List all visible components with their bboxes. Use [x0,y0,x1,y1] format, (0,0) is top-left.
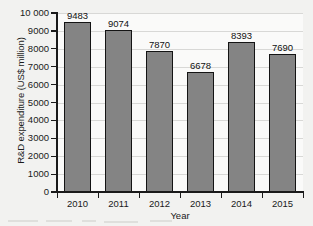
y-tick-label: 6000 [0,79,49,90]
gridline [57,120,303,121]
gridline [57,138,303,139]
x-tick-mark [303,193,304,198]
y-tick-label: 0 [0,186,49,197]
gridline [57,103,303,104]
y-tick-label: 4000 [0,114,49,125]
gridline [57,174,303,175]
x-tick-label-2015: 2015 [258,198,308,209]
y-tick-mark [51,48,56,49]
y-tick-mark [51,84,56,85]
bar-value-label-2012: 7870 [133,39,187,50]
y-tick-mark [51,12,56,13]
bar-2015 [269,54,296,192]
y-tick-label: 3000 [0,132,49,143]
y-tick-mark [51,138,56,139]
y-tick-mark [51,174,56,175]
bar-value-label-2015: 7690 [256,42,310,53]
scan-artifact [104,221,138,223]
scan-artifact [82,220,96,222]
y-tick-mark [51,120,56,121]
y-tick-label: 2000 [0,150,49,161]
y-tick-mark [51,66,56,67]
y-tick-label: 5000 [0,97,49,108]
bar-value-label-2014: 8393 [215,30,269,41]
bar-value-label-2011: 9074 [92,18,146,29]
y-axis-line [56,12,58,193]
bar-2011 [105,30,132,192]
y-tick-label: 1000 [0,168,49,179]
bar-2012 [146,51,173,192]
y-tick-mark [51,191,56,192]
x-tick-mark [57,193,58,198]
y-tick-mark [51,30,56,31]
x-tick-mark [98,193,99,198]
y-tick-mark [51,156,56,157]
x-tick-mark [180,193,181,198]
scan-artifact [150,220,172,222]
bar-2010 [64,22,91,192]
y-tick-label: 8000 [0,43,49,54]
bar-value-label-2013: 6678 [174,60,228,71]
bar-2013 [187,72,214,192]
x-tick-mark [221,193,222,198]
x-tick-mark [139,193,140,198]
y-tick-mark [51,102,56,103]
bar-chart: R&D expenditure (US$ million) 9483907478… [0,0,313,226]
y-tick-label: 9000 [0,25,49,36]
scan-artifact [8,220,38,222]
y-tick-label: 10 000 [0,7,49,18]
gridline [57,85,303,86]
gridline [57,156,303,157]
x-tick-mark [262,193,263,198]
y-tick-label: 7000 [0,61,49,72]
bar-2014 [228,42,255,192]
scan-artifact [46,220,72,222]
